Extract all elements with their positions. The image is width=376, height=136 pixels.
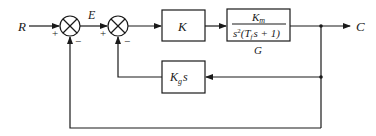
summing-junction-1 [60, 16, 80, 36]
block-diagram: R + − E + − K Km s2(Tfs + 1) G C Kgs [0, 0, 376, 136]
input-label-r: R [17, 19, 26, 34]
controller-label: K [177, 19, 188, 34]
summing-junction-2 [108, 16, 128, 36]
output-label-c: C [356, 19, 365, 34]
sum1-minus-sign: − [75, 35, 81, 47]
sum1-plus-sign: + [52, 27, 58, 39]
sum2-plus-sign: + [100, 27, 106, 39]
error-label-e: E [87, 8, 96, 22]
sum2-minus-sign: − [124, 35, 130, 47]
plant-caption-g: G [254, 44, 262, 56]
plant-denominator: s2(Tfs + 1) [233, 27, 280, 41]
